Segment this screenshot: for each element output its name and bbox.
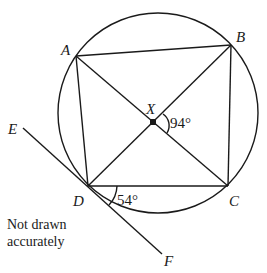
label-a: A <box>60 42 71 58</box>
segment-bc <box>228 45 231 186</box>
label-e: E <box>7 121 17 137</box>
angle-label-cdf: 54° <box>117 192 138 208</box>
note-line-2: accurately <box>7 234 65 249</box>
point-x-marker <box>150 119 156 125</box>
geometry-diagram: A B C D X E F 94° 54° Not drawn accurate… <box>0 0 267 273</box>
segment-da <box>76 56 88 186</box>
label-c: C <box>229 193 240 209</box>
label-b: B <box>236 29 245 45</box>
label-x: X <box>145 101 156 117</box>
diagonal-bd <box>88 45 231 186</box>
note-line-1: Not drawn <box>7 217 67 232</box>
angle-arc-bxc <box>163 114 169 133</box>
segment-ab <box>76 45 231 56</box>
label-d: D <box>72 193 84 209</box>
label-f: F <box>163 253 174 269</box>
angle-label-bxc: 94° <box>170 115 191 131</box>
